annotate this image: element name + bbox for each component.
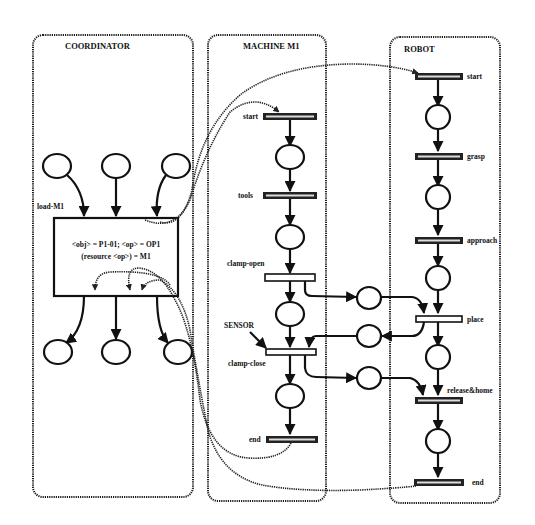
robot-place-5: [426, 429, 450, 453]
arc-clamp-close-to-sync3: [305, 355, 356, 378]
sync-place-clamp-close-to-release: [357, 367, 381, 389]
robot-release-home-label: release&home: [447, 386, 493, 395]
machine-title: MACHINE M1: [243, 41, 299, 51]
robot-grasp-label: grasp: [467, 152, 485, 161]
machine-place-4: [276, 384, 304, 408]
machine-place-2: [276, 225, 304, 249]
machine-clamp-close-label: clamp-close: [228, 359, 266, 368]
robot-place-4: [426, 345, 450, 369]
box-line-1: <obj> = P1-01; <op> = OP1: [72, 240, 161, 249]
transition-highlight: [418, 240, 460, 242]
coordinator-title: COORDINATOR: [65, 41, 131, 51]
robot-net: start grasp approach place release&home: [414, 72, 498, 487]
machine-place-1: [276, 145, 304, 169]
coord-place-bottom-3: [164, 340, 192, 364]
box-line-2: (resource <op>) = M1: [81, 252, 151, 261]
transition-highlight: [418, 156, 460, 158]
load-m1-label: load-M1: [37, 202, 64, 211]
coordinator-net: load-M1 <obj> = P1-01; <op> = OP1 (resou…: [37, 154, 192, 364]
transition-highlight: [266, 195, 314, 197]
arc-clamp-open-to-sync1: [305, 281, 356, 297]
arc-sync2-to-clamp-close: [309, 336, 357, 347]
transition-highlight: [266, 116, 314, 118]
sync-place-clamp-open-to-place: [357, 287, 381, 309]
machine-clamp-open-label: clamp-open: [227, 259, 265, 268]
arc-place-to-sync2: [382, 322, 424, 336]
sync-places: [305, 281, 424, 395]
robot-place-2: [426, 185, 450, 209]
coord-place-top-3: [162, 154, 190, 178]
robot-place-transition: [416, 316, 462, 322]
coord-arc-out-3: [157, 296, 168, 343]
arc-sync1-to-place: [381, 297, 424, 313]
coord-place-top-2: [102, 154, 130, 178]
coord-place-top-1: [43, 154, 71, 178]
machine-place-3: [276, 302, 304, 326]
robot-approach-label: approach: [467, 236, 498, 245]
robot-place-1: [426, 105, 450, 129]
robot-title: ROBOT: [404, 44, 435, 54]
machine-end-label: end: [249, 435, 262, 444]
transition-highlight: [418, 400, 460, 402]
transition-highlight: [269, 439, 315, 441]
machine-clamp-open-transition: [265, 274, 315, 281]
transition-highlight: [418, 76, 460, 78]
sensor-label: SENSOR: [224, 321, 255, 330]
sync-place-place-to-clamp-close: [357, 325, 381, 347]
robot-end-label: end: [472, 478, 485, 487]
machine-start-label: start: [243, 112, 258, 121]
machine-tools-label: tools: [238, 191, 253, 200]
robot-place-label: place: [467, 315, 484, 324]
petri-net-diagram: COORDINATOR MACHINE M1 ROBOT load-M1 <ob…: [0, 0, 535, 525]
coord-place-bottom-1: [44, 340, 72, 364]
coord-arc-out-1: [66, 296, 84, 343]
machine-clamp-close-transition: [266, 349, 316, 355]
robot-place-3: [426, 266, 450, 290]
robot-start-label: start: [467, 72, 482, 81]
coord-arc-in-3: [157, 175, 166, 216]
coord-place-bottom-2: [102, 340, 130, 364]
machine-net: start tools clamp-open SENSOR clamp-clos…: [224, 112, 318, 444]
coord-arc-in-1: [67, 175, 84, 216]
transition-highlight: [417, 482, 461, 484]
arc-sync3-to-release: [381, 378, 423, 395]
sensor-arrow: [250, 332, 266, 348]
